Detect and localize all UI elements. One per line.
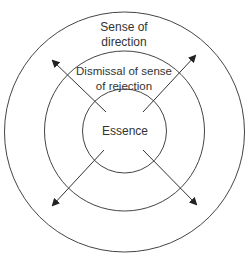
outer-ring-label-line2: direction	[74, 35, 174, 50]
middle-ring-label: Dismissal of sense of rejection	[64, 64, 184, 94]
outer-ring-label-line1: Sense of	[74, 20, 174, 35]
inner-ring-label-line1: Essence	[84, 124, 166, 139]
middle-ring-label-line2: of rejection	[64, 79, 184, 94]
inner-ring-label: Essence	[84, 124, 166, 139]
middle-ring-label-line1: Dismissal of sense	[64, 64, 184, 79]
arrow-down-right	[143, 150, 196, 204]
outer-ring-label: Sense of direction	[74, 20, 174, 50]
